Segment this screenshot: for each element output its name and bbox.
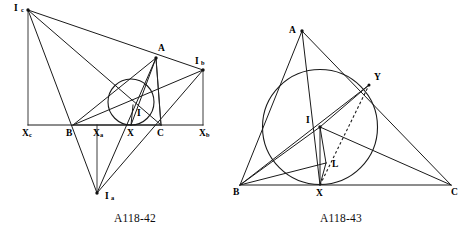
label-xc-main: X: [22, 128, 29, 138]
line-r-b-to-l: [240, 163, 326, 185]
line-r-i-to-l: [320, 127, 326, 163]
label-i-right: I: [306, 115, 310, 125]
label-ib: I b: [195, 56, 205, 66]
caption-right: A118-43: [320, 212, 362, 224]
label-c-left: C: [157, 128, 164, 138]
label-ic-sub: c: [21, 6, 24, 13]
line-r-i-to-c: [320, 127, 451, 185]
label-xb: X b: [199, 128, 210, 138]
label-ia-main: I: [105, 191, 109, 201]
label-x-right: X: [316, 188, 323, 198]
label-c-right: C: [451, 187, 458, 197]
line-excentral-ic-ia: [28, 10, 97, 193]
label-ia: I a: [105, 191, 115, 201]
label-a-left: A: [158, 43, 165, 53]
label-y-right: Y: [374, 72, 381, 82]
label-xa-sub: a: [100, 131, 104, 138]
line-r-i-to-y: [320, 85, 369, 127]
line-r-a-to-x: [302, 31, 320, 185]
label-b-left: B: [66, 128, 73, 138]
vertex-dot-r-y: [368, 84, 371, 87]
vertex-dot-r-i: [318, 125, 321, 128]
vertex-dot-ib: [201, 68, 204, 71]
incircle-left: [108, 79, 154, 125]
label-xa: X a: [93, 128, 104, 138]
label-ic: I c: [14, 3, 24, 13]
figure-right-a118-43: A B C I X Y L A118-43: [233, 25, 458, 224]
label-ib-sub: b: [201, 59, 205, 66]
figure-left-a118-42: I c A I b B C I X X a X b X c: [14, 3, 210, 224]
line-r-side-ab: [240, 31, 302, 185]
vertex-dot-ic: [26, 8, 29, 11]
label-l-right: L: [332, 159, 338, 169]
label-i-left: I: [137, 108, 141, 118]
line-excentral-ic-ib: [28, 10, 203, 70]
vertex-dot-r-a: [300, 29, 303, 32]
label-ic-main: I: [14, 3, 18, 13]
line-r-b-to-y: [240, 85, 369, 185]
label-xc: X c: [22, 128, 32, 138]
figure-canvas: I c A I b B C I X X a X b X c: [0, 0, 469, 236]
label-a-right: A: [289, 25, 296, 35]
label-xc-sub: c: [29, 131, 32, 138]
label-xb-main: X: [199, 128, 206, 138]
label-ia-sub: a: [111, 194, 115, 201]
label-ib-main: I: [195, 56, 199, 66]
label-xb-sub: b: [206, 131, 210, 138]
caption-left: A118-42: [114, 212, 156, 224]
vertex-dot-a: [154, 56, 157, 59]
vertex-dot-ia: [95, 191, 98, 194]
line-r-side-ac: [302, 31, 451, 185]
label-x-left: X: [127, 128, 134, 138]
label-b-right: B: [233, 187, 240, 197]
line-r-dashed-x-to-y: [320, 85, 369, 185]
label-xa-main: X: [93, 128, 100, 138]
figure-sheet: I c A I b B C I X X a X b X c: [0, 0, 469, 236]
line-c-vertical: [156, 58, 161, 125]
